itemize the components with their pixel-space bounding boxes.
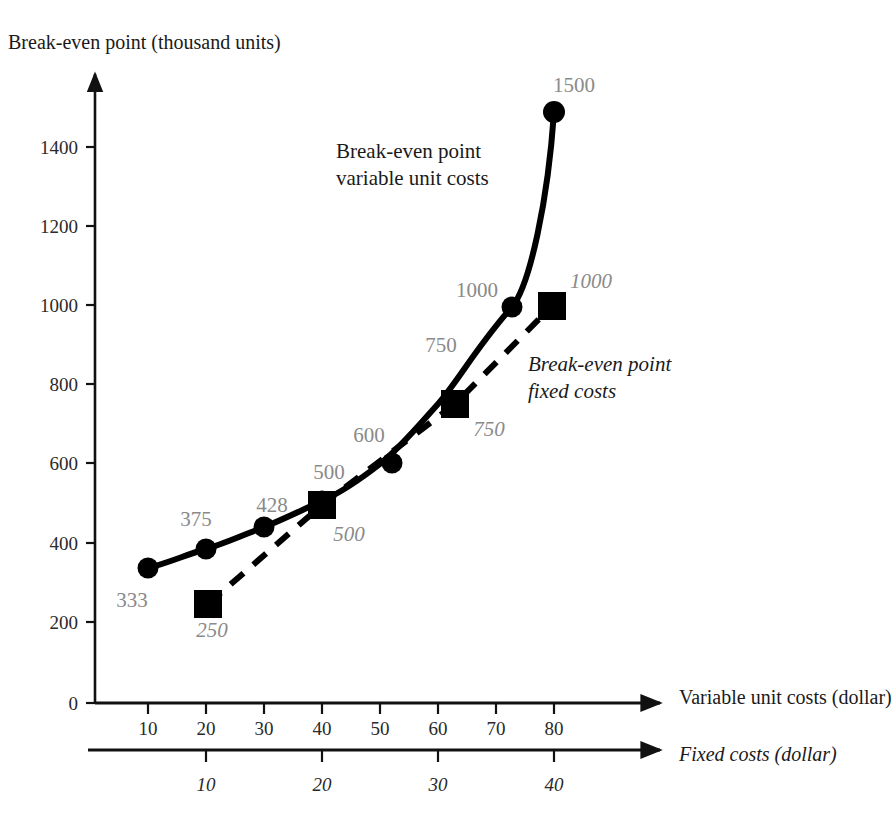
x-tick-label-20: 20 bbox=[197, 719, 216, 738]
x-tick-label-70: 70 bbox=[487, 719, 506, 738]
annotation-fixed-line-2: fixed costs bbox=[528, 378, 671, 405]
series-fixed-costs-line bbox=[208, 306, 552, 604]
data-label-fixed-750: 750 bbox=[473, 419, 505, 440]
annotation-variable-line-1: Break-even point bbox=[336, 138, 489, 165]
y-tick-label-800: 800 bbox=[50, 375, 79, 394]
data-label-fixed-1000: 1000 bbox=[570, 271, 612, 292]
data-label-variable-600: 600 bbox=[353, 425, 385, 446]
x-axis-ticks-fixed bbox=[206, 750, 554, 762]
x-tick-label-fixed-40: 40 bbox=[545, 775, 564, 794]
y-tick-label-600: 600 bbox=[50, 454, 79, 473]
data-label-fixed-500: 500 bbox=[333, 524, 365, 545]
x-tick-label-10: 10 bbox=[139, 719, 158, 738]
x-tick-label-80: 80 bbox=[545, 719, 564, 738]
data-label-variable-1500: 1500 bbox=[553, 75, 595, 96]
x-axis-ticks-variable bbox=[148, 703, 554, 714]
y-tick-label-1000: 1000 bbox=[40, 296, 78, 315]
data-label-variable-428: 428 bbox=[256, 495, 288, 516]
y-tick-label-0: 0 bbox=[69, 694, 79, 713]
annotation-fixed-line-1: Break-even point bbox=[528, 351, 671, 378]
data-label-variable-333: 333 bbox=[116, 590, 148, 611]
data-label-variable-750: 750 bbox=[425, 335, 457, 356]
x-tick-label-30: 30 bbox=[255, 719, 274, 738]
x-tick-label-50: 50 bbox=[371, 719, 390, 738]
y-tick-label-200: 200 bbox=[50, 613, 79, 632]
annotation-variable-line-2: variable unit costs bbox=[336, 165, 489, 192]
x-tick-label-40: 40 bbox=[313, 719, 332, 738]
data-label-variable-375: 375 bbox=[180, 509, 212, 530]
annotation-fixed-costs: Break-even point fixed costs bbox=[528, 351, 671, 405]
x-tick-label-fixed-10: 10 bbox=[197, 775, 216, 794]
x-tick-label-60: 60 bbox=[429, 719, 448, 738]
annotation-variable-unit-costs: Break-even point variable unit costs bbox=[336, 138, 489, 192]
series-fixed-markers bbox=[194, 292, 566, 618]
y-tick-label-1400: 1400 bbox=[40, 138, 78, 157]
data-label-fixed-250: 250 bbox=[196, 620, 228, 641]
data-label-variable-500: 500 bbox=[313, 462, 345, 483]
x-tick-label-fixed-20: 20 bbox=[313, 775, 332, 794]
data-label-variable-1000: 1000 bbox=[456, 280, 498, 301]
y-tick-label-1200: 1200 bbox=[40, 217, 78, 236]
y-axis-ticks bbox=[86, 147, 95, 703]
y-tick-label-400: 400 bbox=[50, 534, 79, 553]
x-tick-label-fixed-30: 30 bbox=[429, 775, 448, 794]
